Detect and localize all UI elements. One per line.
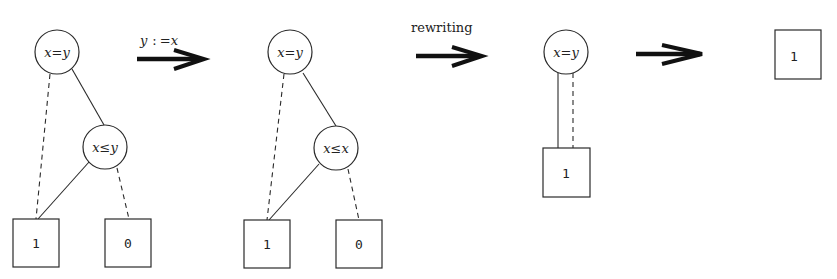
- terminal-label: 1: [263, 237, 271, 252]
- edge-solid-n1-n2: [303, 73, 336, 126]
- stage-rewritten: x=y 1: [543, 30, 590, 197]
- stage-reduced: 1: [775, 30, 821, 79]
- edge-dashed-n1-t1: [36, 74, 50, 219]
- terminal-label: 0: [355, 237, 363, 252]
- node-label: x=y: [553, 45, 579, 60]
- edge-dashed-n2-t0: [117, 168, 129, 219]
- node-label: x=y: [44, 45, 70, 60]
- transition-arrow-reduce: [636, 45, 702, 64]
- stage-original: x=y x≤y 1 0: [13, 30, 151, 267]
- edge-dashed-n2-t0: [348, 169, 359, 220]
- arrow-label-assignment: y:=x: [139, 33, 179, 48]
- edge-solid-n1-n2: [72, 69, 104, 125]
- terminal-label: 1: [790, 49, 798, 64]
- edge-solid-n2-t1: [38, 162, 89, 219]
- stage-substituted: x=y x≤x 1 0: [244, 30, 382, 268]
- transition-arrow-rewriting: rewriting: [411, 20, 482, 66]
- terminal-label: 1: [562, 166, 570, 181]
- node-label: x≤x: [323, 141, 349, 156]
- terminal-label: 0: [124, 236, 132, 251]
- arrow-label-rewriting: rewriting: [411, 20, 472, 35]
- node-label: x≤y: [92, 140, 118, 155]
- transition-arrow-assignment: y:=x: [137, 33, 204, 69]
- node-label: x=y: [277, 45, 303, 60]
- terminal-box: [775, 30, 821, 79]
- edge-solid-n2-t1: [269, 164, 319, 220]
- edge-dashed-n1-t1: [267, 74, 284, 220]
- bdd-rewriting-diagram: x=y x≤y 1 0 y:=x x=y x≤x 1 0 rewriting: [0, 0, 837, 279]
- terminal-label: 1: [32, 236, 40, 251]
